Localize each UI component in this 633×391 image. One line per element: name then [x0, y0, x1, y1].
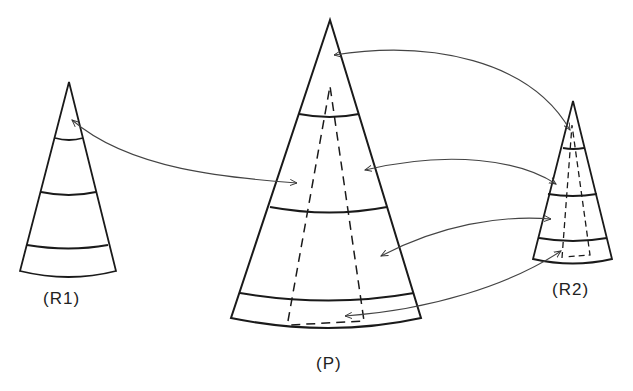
arrows — [72, 50, 570, 316]
arrow-p-r1 — [72, 120, 297, 183]
arrow-p-r2-core — [345, 251, 561, 316]
label-p: (P) — [316, 354, 342, 374]
label-r2: (R2) — [552, 280, 589, 300]
arrow-p-r2-lower — [381, 218, 551, 256]
cone-r1 — [20, 82, 116, 277]
arrow-p-r2-top — [334, 50, 570, 130]
cone-p — [231, 20, 421, 328]
diagram-canvas — [0, 0, 633, 391]
core-r2 — [562, 125, 590, 258]
core-p — [288, 86, 364, 325]
label-r1: (R1) — [43, 289, 80, 309]
arrow-p-r2-middle — [365, 159, 556, 184]
